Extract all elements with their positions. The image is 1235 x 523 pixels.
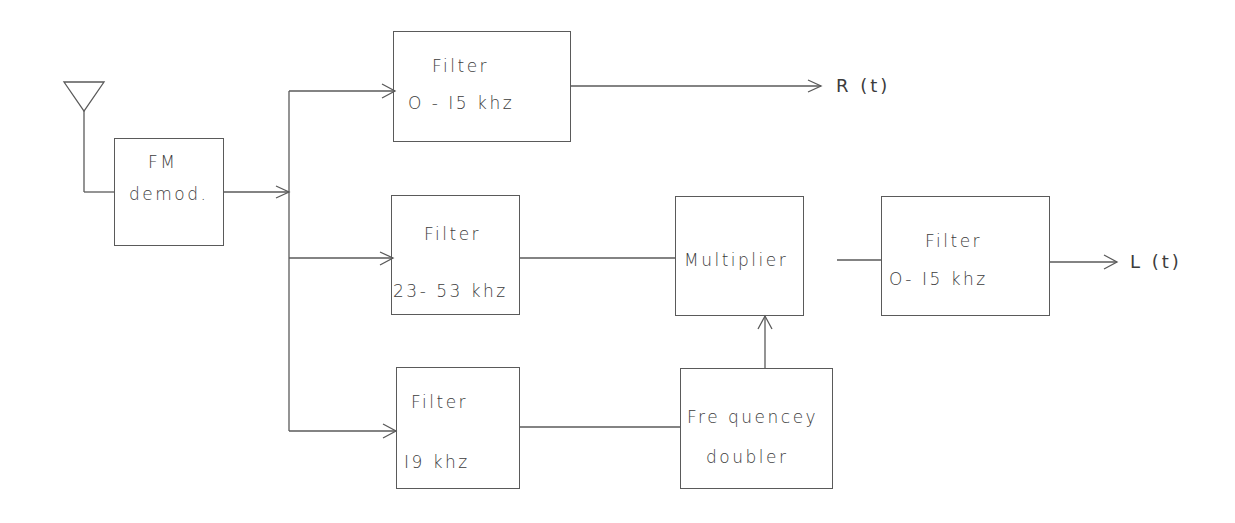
filter-pilot-label-1: Filter xyxy=(411,392,468,412)
filter-sub-label-1: Filter xyxy=(424,224,481,244)
filter-sub-label-2: 23- 53 khz xyxy=(393,281,508,301)
filter-r-label-1: Filter xyxy=(432,56,489,76)
filter-l-label-2: O- I5 khz xyxy=(889,269,988,289)
filter-r-block xyxy=(393,31,571,142)
doubler-label-1: Fre quencey xyxy=(687,407,818,427)
fm-demod-label-2: demod. xyxy=(129,184,208,204)
antenna-icon xyxy=(64,82,104,111)
filter-l-label-1: Filter xyxy=(925,231,982,251)
filter-r-label-2: O - I5 khz xyxy=(408,93,514,113)
output-l: L (t) xyxy=(1130,251,1182,272)
filter-pilot-label-2: I9 khz xyxy=(404,452,470,472)
multiplier-label: Multiplier xyxy=(684,250,788,270)
fm-demod-label-1: FM xyxy=(148,152,177,172)
doubler-label-2: doubler xyxy=(706,447,788,467)
output-r: R (t) xyxy=(836,75,890,96)
filter-l-block xyxy=(881,196,1050,316)
frequency-doubler-block xyxy=(680,368,833,489)
